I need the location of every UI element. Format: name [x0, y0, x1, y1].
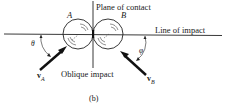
- contact-point: [92, 30, 94, 38]
- angle-phi-label: φ: [139, 47, 143, 55]
- figure-caption: (b): [89, 95, 98, 103]
- sphere-b: [93, 19, 123, 49]
- velocity-b-label: vB: [147, 75, 155, 85]
- body-a-label: A: [67, 11, 72, 20]
- impact-diagram: [0, 0, 230, 108]
- body-b-label: B: [121, 11, 126, 20]
- velocity-b-subscript: B: [151, 79, 155, 85]
- velocity-a-label: vA: [37, 72, 45, 82]
- velocity-a-subscript: A: [41, 76, 45, 82]
- angle-theta-label: θ: [31, 40, 35, 48]
- line-of-impact-label: Line of impact: [155, 26, 205, 35]
- angle-arc-theta: [41, 35, 50, 56]
- oblique-impact-label: Oblique impact: [61, 70, 114, 79]
